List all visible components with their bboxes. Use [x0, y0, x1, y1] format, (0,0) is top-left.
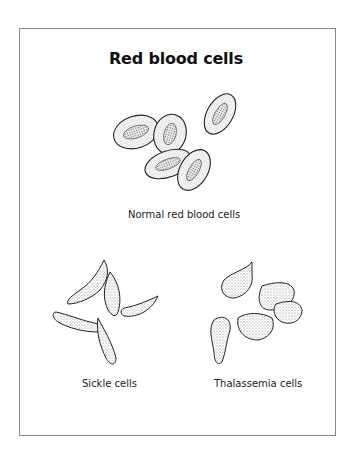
normal-cells-group — [109, 88, 242, 196]
normal-cell-icon — [198, 88, 243, 139]
sickle-cells-label: Sickle cells — [82, 378, 137, 389]
sickle-cell-icon — [104, 272, 120, 316]
thalassemia-cell-icon — [211, 317, 230, 363]
thalassemia-cells-group — [211, 262, 302, 364]
sickle-cell-icon — [121, 296, 158, 316]
thalassemia-cell-icon — [222, 262, 253, 298]
sickle-cell-icon — [68, 260, 108, 304]
thalassemia-cell-icon — [274, 302, 302, 324]
thalassemia-cells-label: Thalassemia cells — [214, 378, 302, 389]
sickle-cell-icon — [53, 312, 102, 332]
normal-cells-label: Normal red blood cells — [128, 209, 240, 220]
thalassemia-cell-icon — [238, 314, 273, 341]
sickle-cells-group — [53, 260, 158, 364]
sickle-cell-icon — [97, 318, 116, 364]
